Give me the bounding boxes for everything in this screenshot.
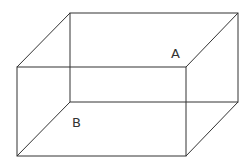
front-face [17, 67, 186, 156]
edge-bottom-right [186, 102, 238, 156]
label-b: B [72, 115, 81, 130]
edge-top-left [17, 13, 70, 67]
back-face [70, 13, 238, 102]
box-diagram: A B [0, 0, 250, 167]
edge-top-right [186, 13, 238, 67]
label-a: A [171, 46, 180, 61]
edge-bottom-left [17, 102, 70, 156]
